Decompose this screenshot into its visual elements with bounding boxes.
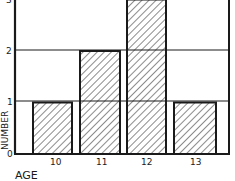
bar-age-13 — [174, 103, 216, 155]
y-tick-1: 1 — [7, 97, 13, 107]
x-tick-13: 13 — [190, 157, 201, 167]
bar-age-10 — [33, 103, 72, 155]
gridlines — [15, 50, 229, 101]
bar-age-12 — [127, 0, 166, 154]
y-tick-3: 3 — [6, 0, 12, 5]
x-tick-12: 12 — [141, 157, 152, 167]
bars — [33, 0, 216, 154]
y-tick-2: 2 — [6, 46, 12, 56]
y-axis-title: NUMBER — [0, 111, 10, 150]
x-axis-title: AGE — [15, 169, 38, 181]
x-tick-10: 10 — [50, 157, 62, 167]
x-tick-11: 11 — [96, 157, 107, 167]
bar-age-11 — [80, 51, 120, 154]
bar-chart: 0 1 2 3 10 11 12 13 AGE NUMBER — [0, 0, 235, 181]
